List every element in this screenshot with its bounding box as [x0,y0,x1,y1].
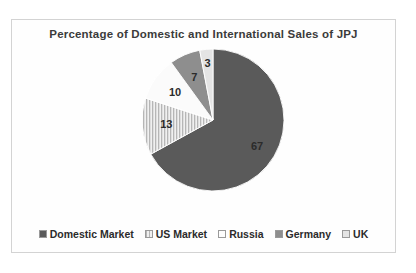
legend-label: Domestic Market [50,228,134,240]
legend-swatch-icon [342,230,350,238]
pie-slice-value-label: 13 [160,118,172,130]
legend-swatch-icon [39,230,47,238]
legend-item[interactable]: Russia [218,228,263,240]
pie-svg: 67131073 [140,47,286,193]
pie-chart: 67131073 [140,47,286,193]
pie-slice-value-label: 10 [169,86,181,98]
chart-title: Percentage of Domestic and International… [12,28,395,40]
legend-swatch-icon [218,230,226,238]
legend-swatch-icon [275,230,283,238]
pie-slice-value-label: 7 [191,71,197,83]
legend-item[interactable]: UK [342,228,368,240]
legend-label: Russia [229,228,263,240]
legend-label: UK [353,228,368,240]
chart-frame: Percentage of Domestic and International… [11,19,396,253]
pie-slice-value-label: 67 [251,140,263,152]
chart-legend: Domestic MarketUS MarketRussiaGermanyUK [12,228,395,240]
legend-swatch-icon [145,230,153,238]
legend-item[interactable]: US Market [145,228,207,240]
legend-label: US Market [156,228,207,240]
pie-slice-value-label: 3 [205,57,211,69]
legend-item[interactable]: Domestic Market [39,228,134,240]
legend-item[interactable]: Germany [275,228,332,240]
legend-label: Germany [286,228,332,240]
